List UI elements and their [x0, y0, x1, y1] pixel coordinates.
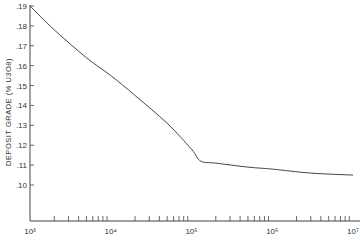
x-tick-label: 10⁴: [105, 227, 118, 236]
y-tick-label: .13: [16, 121, 28, 130]
y-tick-label: .14: [16, 101, 28, 110]
y-tick-label: .18: [16, 22, 28, 31]
y-tick-label: .15: [16, 82, 28, 91]
y-tick-label: .11: [16, 161, 27, 170]
x-tick-label: 10⁶: [266, 227, 278, 236]
y-tick-label: .17: [16, 42, 28, 51]
y-axis-label: DEPOSIT GRADE (% U3O8): [4, 58, 13, 166]
y-axis-ticks: .19.18.17.16.15.14.13.12.11.10: [16, 2, 34, 190]
x-tick-label: 10⁷: [347, 227, 359, 236]
svg-text:DEPOSIT GRADE (% U3O8): DEPOSIT GRADE (% U3O8): [4, 58, 13, 166]
y-tick-label: .19: [16, 2, 28, 11]
y-tick-label: .10: [16, 181, 28, 190]
x-tick-label: 10⁵: [185, 227, 197, 236]
x-axis-ticks: 10³10⁴10⁵10⁶10⁷: [24, 216, 359, 236]
y-tick-label: .12: [16, 141, 28, 150]
x-tick-label: 10³: [24, 227, 36, 236]
chart: DEPOSIT GRADE (% U3O8) .19.18.17.16.15.1…: [0, 0, 360, 251]
data-line: [30, 6, 353, 175]
y-tick-label: .16: [16, 62, 28, 71]
